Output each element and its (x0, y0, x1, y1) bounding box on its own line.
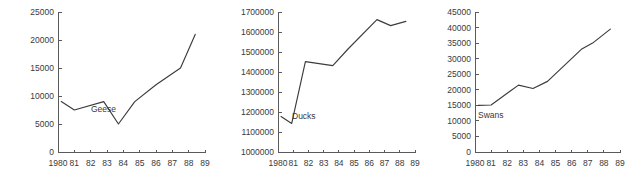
y-axis-tick-label: 45000 (447, 7, 471, 17)
y-axis-tick-label: 10000 (30, 91, 54, 101)
y-axis-tick-label: 1500000 (241, 47, 274, 57)
y-axis-tick-label: 1700000 (241, 7, 274, 17)
x-axis-tick-label: 1980 (269, 158, 288, 168)
geese-axes (58, 12, 205, 153)
x-axis-tick-label: 84 (334, 158, 344, 168)
y-axis-tick-label: 40000 (447, 23, 471, 33)
chart-panel-swans: 0500010000150002000025000300003500040000… (420, 0, 640, 181)
x-axis-tick-label: 81 (288, 158, 298, 168)
x-axis-tick-label: 85 (349, 158, 359, 168)
y-axis-tick-label: 25000 (447, 69, 471, 79)
ducks-ytick-labels: 1000000110000012000001300000140000015000… (241, 7, 274, 157)
x-axis-tick-label: 88 (395, 158, 405, 168)
x-axis-tick-label: 82 (86, 158, 96, 168)
x-axis-tick-label: 83 (519, 158, 529, 168)
ducks-chart-svg: 1000000110000012000001300000140000015000… (215, 0, 420, 181)
x-axis-tick-label: 1980 (466, 158, 485, 168)
swans-xtick-labels: 1980818283848586878889 (466, 158, 625, 168)
geese-xtick-labels: 1980818283848586878889 (49, 158, 210, 168)
y-axis-tick-label: 1100000 (242, 127, 275, 137)
swans-series-line (478, 29, 610, 105)
x-axis-tick-label: 89 (615, 158, 625, 168)
x-axis-tick-label: 88 (184, 158, 194, 168)
x-axis-tick-label: 86 (151, 158, 161, 168)
x-axis-tick-label: 89 (410, 158, 420, 168)
chart-panel-geese: 0500010000150002000025000 19808182838485… (0, 0, 215, 181)
geese-series-line (61, 34, 195, 124)
x-axis-tick-label: 82 (304, 158, 314, 168)
swans-axes (475, 12, 620, 153)
x-axis-tick-label: 82 (502, 158, 512, 168)
x-axis-tick-label: 87 (168, 158, 178, 168)
x-axis-tick-label: 81 (70, 158, 80, 168)
y-axis-tick-label: 25000 (30, 7, 54, 17)
three-panel-line-chart-figure: 0500010000150002000025000 19808182838485… (0, 0, 640, 181)
x-axis-tick-label: 84 (535, 158, 545, 168)
ducks-series-line (281, 20, 406, 124)
x-axis-tick-label: 1980 (49, 158, 68, 168)
y-axis-tick-label: 1300000 (241, 87, 274, 97)
ducks-series-label: Ducks (292, 111, 316, 121)
x-axis-tick-label: 86 (567, 158, 577, 168)
geese-chart-svg: 0500010000150002000025000 19808182838485… (0, 0, 215, 181)
y-axis-tick-label: 20000 (447, 85, 471, 95)
axis-spine (59, 12, 206, 153)
x-axis-tick-label: 84 (119, 158, 129, 168)
x-axis-tick-label: 83 (319, 158, 329, 168)
x-axis-tick-label: 86 (365, 158, 375, 168)
y-axis-tick-label: 1400000 (241, 67, 274, 77)
y-axis-tick-label: 15000 (30, 63, 54, 73)
x-axis-tick-label: 83 (102, 158, 112, 168)
swans-chart-svg: 0500010000150002000025000300003500040000… (420, 0, 640, 181)
geese-series-label: Geese (91, 104, 116, 114)
y-axis-tick-label: 5000 (452, 131, 471, 141)
y-axis-tick-label: 0 (466, 147, 471, 157)
axis-spine (476, 12, 621, 153)
y-axis-tick-label: 10000 (447, 116, 471, 126)
chart-panel-ducks: 1000000110000012000001300000140000015000… (215, 0, 420, 181)
y-axis-tick-label: 1600000 (241, 27, 274, 37)
swans-ytick-labels: 0500010000150002000025000300003500040000… (447, 7, 471, 157)
y-axis-tick-label: 0 (49, 147, 54, 157)
x-axis-tick-label: 89 (200, 158, 210, 168)
y-axis-tick-label: 30000 (447, 54, 471, 64)
x-axis-tick-label: 87 (583, 158, 593, 168)
geese-ytick-labels: 0500010000150002000025000 (30, 7, 54, 157)
x-axis-tick-label: 85 (551, 158, 561, 168)
ducks-xtick-labels: 1980818283848586878889 (269, 158, 420, 168)
y-axis-tick-label: 20000 (30, 35, 54, 45)
x-axis-tick-label: 85 (135, 158, 145, 168)
y-axis-tick-label: 5000 (35, 119, 54, 129)
swans-series-label: Swans (478, 110, 504, 120)
y-axis-tick-label: 1000000 (241, 147, 274, 157)
x-axis-tick-label: 87 (380, 158, 390, 168)
y-axis-tick-label: 15000 (447, 100, 471, 110)
y-axis-tick-label: 1200000 (241, 107, 274, 117)
x-axis-tick-label: 88 (599, 158, 609, 168)
ducks-axes (278, 12, 415, 153)
y-axis-tick-label: 35000 (447, 38, 471, 48)
axis-spine (279, 12, 416, 153)
x-axis-tick-label: 81 (486, 158, 496, 168)
